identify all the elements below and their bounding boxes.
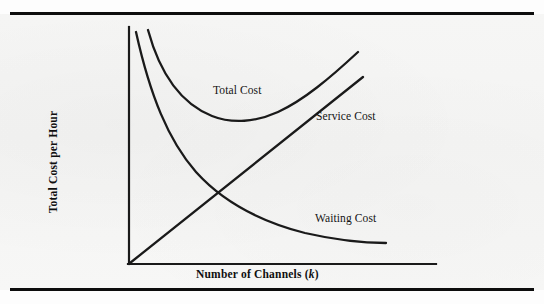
waiting-cost-label: Waiting Cost <box>315 212 376 224</box>
chart-plot-area <box>0 0 544 304</box>
x-axis-title: Number of Channels (k) <box>196 268 319 280</box>
total-cost-label: Total Cost <box>213 84 261 96</box>
x-axis-title-text: Number of Channels <box>196 268 302 280</box>
figure-container: Total Cost Service Cost Waiting Cost Num… <box>0 0 544 304</box>
service-cost-label: Service Cost <box>316 110 376 122</box>
x-axis-title-symbol: k <box>309 268 315 280</box>
y-axis-title: Total Cost per Hour <box>47 82 59 242</box>
service-cost-line <box>130 77 363 263</box>
